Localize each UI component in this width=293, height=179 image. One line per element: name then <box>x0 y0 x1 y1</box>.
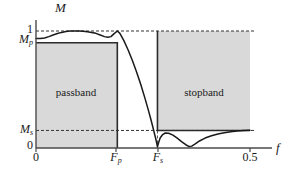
x-tick-label-fp: Fp <box>104 150 128 165</box>
x-tick-fs-subscript: s <box>160 156 163 165</box>
y-tick-label-mp: Mp <box>6 32 33 47</box>
x-tick-label-half: 0.5 <box>236 150 264 165</box>
x-tick-fp-subscript: p <box>118 156 122 165</box>
x-tick-label-zero: 0 <box>27 150 45 165</box>
passband-label: passband <box>36 86 116 98</box>
filter-specification-chart: M f 1 Mp Ms 0 0 Fp Fs 0.5 passband stopb… <box>0 0 293 179</box>
y-tick-ms-subscript: s <box>30 128 33 137</box>
x-axis-title: f <box>276 140 280 156</box>
y-tick-label-ms: Ms <box>6 122 33 137</box>
x-tick-fs-base: F <box>153 150 160 164</box>
y-tick-ms-base: M <box>20 122 30 136</box>
stopband-label: stopband <box>158 86 250 98</box>
x-tick-fp-base: F <box>110 150 117 164</box>
y-tick-mp-base: M <box>19 32 29 46</box>
y-tick-mp-subscript: p <box>29 38 33 47</box>
stopband-region <box>157 31 250 130</box>
x-tick-label-fs: Fs <box>146 150 170 165</box>
y-axis-title: M <box>55 0 66 16</box>
